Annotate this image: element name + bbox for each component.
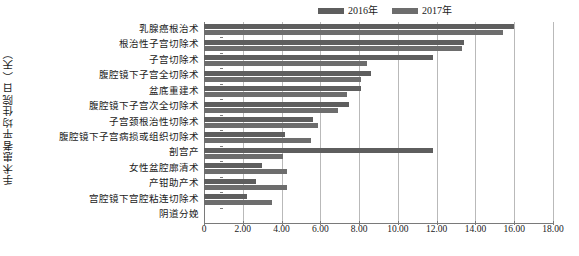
bar-2017年 — [204, 46, 462, 51]
category-label: 根治性子宫切除术 — [119, 40, 199, 50]
bar-group — [204, 68, 553, 83]
bar-2016年 — [204, 71, 371, 76]
category-label: 产钳助产术 — [149, 179, 199, 189]
category-label: 子宫颈根治性切除术 — [109, 118, 199, 128]
bar-2017年 — [204, 169, 287, 174]
category-label: 盆底重建术 — [149, 87, 199, 97]
bar-2016年 — [204, 163, 262, 168]
bar-group — [204, 177, 553, 192]
category-label: 腹腔镜下子宫全切除术 — [99, 71, 199, 81]
x-tick-label: 14.00 — [465, 225, 486, 235]
legend-label-2017: 2017年 — [422, 6, 452, 16]
chart-container: 手术患者平均住院日（天） 2016年 2017年 乳腺癌根治术根治性子宫切除术子… — [0, 0, 579, 256]
bar-2017年 — [204, 138, 311, 143]
bar-group — [204, 146, 553, 161]
bar-group — [204, 53, 553, 68]
bar-2017年 — [204, 154, 283, 159]
bar-2017年 — [204, 92, 347, 97]
bar-group — [204, 130, 553, 145]
category-label: 腹腔镜下子宫次全切除术 — [89, 102, 199, 112]
bar-2016年 — [204, 117, 313, 122]
legend-item-2017: 2017年 — [392, 6, 452, 16]
bar-group — [204, 208, 553, 223]
bar-2016年 — [204, 179, 256, 184]
bar-2017年 — [204, 61, 367, 66]
category-label: 女性盆腔廓清术 — [129, 164, 199, 174]
bar-2017年 — [204, 108, 338, 113]
bar-group — [204, 99, 553, 114]
bar-group — [204, 84, 553, 99]
x-tick-label: 6.00 — [312, 225, 329, 235]
bar-group — [204, 161, 553, 176]
x-tick-label: 4.00 — [273, 225, 290, 235]
x-tick-label: 0 — [202, 225, 207, 235]
bar-2016年 — [204, 194, 247, 199]
bar-group — [204, 192, 553, 207]
y-axis-category-labels: 乳腺癌根治术根治性子宫切除术子宫切除术腹腔镜下子宫全切除术盆底重建术腹腔镜下子宫… — [18, 22, 202, 223]
category-label: 乳腺癌根治术 — [139, 25, 199, 35]
category-label: 阴道分娩 — [159, 210, 199, 220]
y-axis-title: 手术患者平均住院日（天） — [0, 0, 18, 232]
bar-2017年 — [204, 77, 361, 82]
grid-line — [553, 22, 554, 223]
bar-2016年 — [204, 102, 349, 107]
category-label: 腹腔镜下子宫病损或组织切除术 — [59, 133, 199, 143]
x-axis-tick-labels: 02.004.006.008.0010.0012.0014.0016.0018.… — [204, 225, 553, 239]
legend-swatch-2016 — [318, 8, 344, 14]
category-label: 宫腔镜下宫腔粘连切除术 — [89, 195, 199, 205]
bar-rows — [204, 22, 553, 223]
bar-2017年 — [204, 185, 287, 190]
bar-2016年 — [204, 148, 433, 153]
bar-group — [204, 115, 553, 130]
bar-2016年 — [204, 132, 285, 137]
chart-legend: 2016年 2017年 — [318, 6, 452, 16]
bar-2016年 — [204, 86, 361, 91]
bar-2017年 — [204, 123, 318, 128]
x-tick-label: 12.00 — [426, 225, 447, 235]
x-axis-line — [204, 223, 554, 224]
category-label: 剖宫产 — [169, 148, 199, 158]
x-tick-label: 18.00 — [542, 225, 563, 235]
x-tick-label: 10.00 — [387, 225, 408, 235]
legend-item-2016: 2016年 — [318, 6, 378, 16]
bar-2017年 — [204, 200, 272, 205]
y-axis-title-text: 手术患者平均住院日（天） — [4, 47, 15, 185]
bar-2017年 — [204, 30, 503, 35]
legend-swatch-2017 — [392, 8, 418, 14]
bar-group — [204, 22, 553, 37]
bar-2016年 — [204, 55, 433, 60]
bar-2016年 — [204, 24, 514, 29]
legend-label-2016: 2016年 — [348, 6, 378, 16]
category-label: 子宫切除术 — [149, 56, 199, 66]
bar-group — [204, 37, 553, 52]
x-tick-label: 16.00 — [504, 225, 525, 235]
plot-area — [204, 22, 553, 223]
bar-2016年 — [204, 40, 464, 45]
x-tick-label: 2.00 — [234, 225, 251, 235]
x-tick-label: 8.00 — [351, 225, 368, 235]
